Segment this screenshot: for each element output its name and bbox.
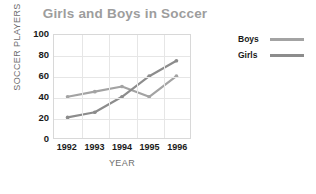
plot-area: [53, 34, 191, 139]
chart-container: Girls and Boys in Soccer SOCCER PLAYERS …: [0, 0, 316, 194]
gridline-vertical: [109, 35, 110, 138]
y-tick-label: 20: [3, 112, 49, 123]
gridline-vertical: [137, 35, 138, 138]
gridline-horizontal: [54, 56, 190, 57]
gridline-horizontal: [54, 98, 190, 99]
y-tick-label: 60: [3, 70, 49, 81]
legend-label: Girls: [238, 50, 264, 60]
legend-label: Boys: [238, 34, 264, 44]
legend-item-boys[interactable]: Boys: [238, 31, 304, 47]
legend-item-girls[interactable]: Girls: [238, 47, 304, 63]
y-tick-label: 40: [3, 91, 49, 102]
y-axis-tick-labels: 020406080100: [0, 34, 49, 139]
chart-legend: BoysGirls: [238, 31, 304, 63]
legend-swatch: [270, 38, 304, 41]
legend-swatch: [270, 54, 304, 57]
x-axis-title: YEAR: [53, 158, 191, 168]
gridline-vertical: [82, 35, 83, 138]
chart-title: Girls and Boys in Soccer: [0, 6, 250, 21]
series-lines: [54, 35, 190, 138]
y-tick-label: 80: [3, 49, 49, 60]
data-point: [93, 110, 97, 114]
gridline-horizontal: [54, 119, 190, 120]
x-tick-label: 1996: [157, 142, 197, 152]
data-point: [120, 85, 124, 89]
y-tick-label: 100: [3, 28, 49, 39]
gridline-vertical: [164, 35, 165, 138]
data-point: [175, 59, 179, 63]
data-point: [93, 90, 97, 94]
gridline-horizontal: [54, 77, 190, 78]
y-tick-label: 0: [3, 133, 49, 144]
x-axis-tick-labels: 19921993199419951996: [53, 142, 191, 156]
